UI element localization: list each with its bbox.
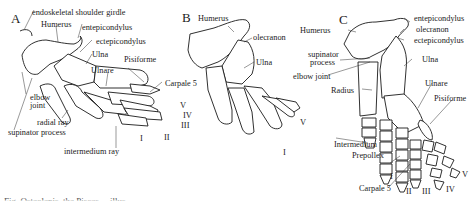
digit-v-c: V bbox=[462, 170, 468, 179]
label-ectepicondylus-c: ectepicondylus bbox=[414, 36, 464, 45]
label-pisiforme-a: Pisiforme bbox=[124, 55, 156, 64]
panel-label-a: A bbox=[11, 12, 20, 25]
label-ulnare-a: Ulnare bbox=[91, 66, 114, 75]
label-supinator-process-a: supinator process bbox=[8, 128, 66, 137]
limb-skeleton-drawings bbox=[0, 0, 472, 202]
label-ectepicondylus-a: ectepicondylus bbox=[96, 37, 146, 46]
label-ulna-b: Ulna bbox=[256, 58, 272, 67]
label-carpale5-c: Carpale 5 bbox=[359, 184, 391, 193]
label-ulna-c: Ulna bbox=[422, 55, 438, 64]
label-entepicondylus-c: entepicondylus bbox=[414, 14, 464, 23]
panel-label-c: C bbox=[339, 13, 348, 26]
digit-ii-a: II bbox=[164, 133, 170, 142]
label-prepollex-c: Prepollex bbox=[352, 151, 384, 160]
label-entepicondylus-a: entepicondylus bbox=[82, 23, 132, 32]
panel-label-b: B bbox=[182, 11, 191, 24]
digit-iv-a: IV bbox=[183, 111, 192, 120]
label-intermedium-c: Intermedium bbox=[334, 140, 377, 149]
label-olecranon-c: olecranon bbox=[416, 25, 449, 34]
anatomical-figure: A B C endoskeletal shoulder girdle Humer… bbox=[0, 0, 472, 202]
digit-i-a: I bbox=[140, 134, 143, 143]
digit-iii-c: III bbox=[422, 187, 431, 196]
digit-i-b: I bbox=[283, 148, 286, 157]
label-humerus-c: Humerus bbox=[300, 26, 330, 35]
label-shoulder-girdle: endoskeletal shoulder girdle bbox=[32, 8, 126, 17]
label-ulnare-c: Ulnare bbox=[425, 79, 448, 88]
digit-v-b: V bbox=[300, 118, 306, 127]
label-olecranon-b: olecranon bbox=[253, 33, 286, 42]
digit-iii-a: III bbox=[181, 121, 190, 130]
label-pisiforme-c: Pisiforme bbox=[434, 94, 466, 103]
label-ulna-a: Ulna bbox=[92, 50, 108, 59]
label-joint-a: joint bbox=[30, 101, 45, 110]
digit-ii-c: II bbox=[406, 187, 412, 196]
label-intermedium-ray: intermedium ray bbox=[64, 147, 119, 156]
label-carpale5-a: Carpale 5 bbox=[165, 79, 197, 88]
label-elbow-joint-c: elbow joint bbox=[293, 72, 331, 81]
label-humerus-a: Humerus bbox=[41, 20, 71, 29]
digit-iv-c: IV bbox=[446, 185, 455, 194]
label-humerus-b: Humerus bbox=[198, 14, 228, 23]
digit-v-a: V bbox=[180, 101, 186, 110]
label-radius-c: Radius bbox=[331, 86, 354, 95]
digit-i-c: I bbox=[390, 172, 393, 181]
label-process-c: process bbox=[310, 58, 335, 67]
label-radial-ray: radial ray bbox=[37, 118, 69, 127]
